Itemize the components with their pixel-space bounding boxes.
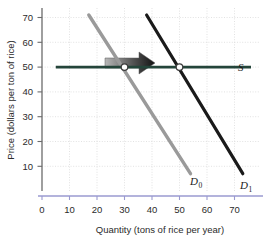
x-tick-label-70: 70 bbox=[229, 204, 240, 215]
new-equilibrium-marker bbox=[176, 64, 183, 71]
y-tick-label-50: 50 bbox=[22, 61, 33, 72]
x-tick-label-10: 10 bbox=[64, 204, 75, 215]
y-tick-label-30: 30 bbox=[22, 111, 33, 122]
x-tick-label-30: 30 bbox=[119, 204, 130, 215]
y-tick-label-70: 70 bbox=[22, 12, 33, 23]
x-tick-label-0: 0 bbox=[39, 204, 44, 215]
supply-curve-s-label: S bbox=[238, 61, 244, 73]
y-tick-label-10: 10 bbox=[22, 161, 33, 172]
initial-equilibrium-marker bbox=[121, 64, 128, 71]
x-tick-label-40: 40 bbox=[147, 204, 158, 215]
x-axis-title: Quantity (tons of rice per year) bbox=[96, 224, 224, 235]
y-tick-label-40: 40 bbox=[22, 86, 33, 97]
plot-background bbox=[42, 8, 260, 191]
y-tick-label-60: 60 bbox=[22, 37, 33, 48]
x-tick-label-20: 20 bbox=[92, 204, 103, 215]
chart-canvas: 70 60 50 40 30 20 10 0 10 20 30 40 50 60… bbox=[0, 0, 267, 248]
y-axis-ticks bbox=[38, 18, 43, 167]
supply-demand-chart: 70 60 50 40 30 20 10 0 10 20 30 40 50 60… bbox=[0, 0, 267, 248]
x-tick-label-50: 50 bbox=[174, 204, 185, 215]
y-tick-label-20: 20 bbox=[22, 136, 33, 147]
y-axis-title: Price (dollars per ton of rice) bbox=[5, 40, 16, 159]
x-tick-label-60: 60 bbox=[202, 204, 213, 215]
